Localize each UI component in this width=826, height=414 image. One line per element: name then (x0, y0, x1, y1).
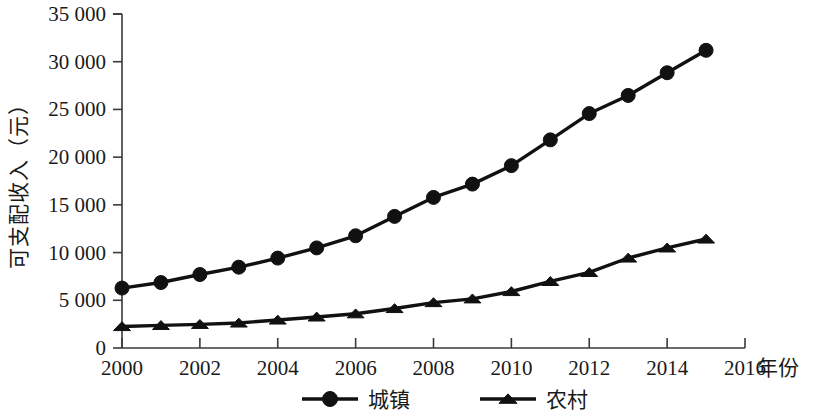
legend-item-2: 农村 (480, 388, 588, 412)
y-axis-title: 可支配收入（元） (7, 93, 31, 269)
data-point-circle (660, 66, 674, 80)
series-line-1 (122, 50, 706, 288)
data-point-circle (271, 251, 285, 265)
y-axis-tick-labels: 05 00010 00015 00020 00025 00030 00035 0… (48, 2, 106, 360)
data-point-circle (427, 190, 441, 204)
y-tick-label: 35 000 (48, 2, 106, 26)
x-axis-title: 年份 (757, 356, 799, 380)
data-point-circle (388, 209, 402, 223)
y-tick-label: 5 000 (59, 288, 106, 312)
x-tick-label: 2006 (335, 356, 377, 380)
legend-label: 城镇 (368, 388, 410, 412)
y-tick-label: 10 000 (48, 241, 106, 265)
x-tick-label: 2010 (490, 356, 532, 380)
series-markers (114, 43, 715, 330)
y-tick-label: 20 000 (48, 145, 106, 169)
x-tick-label: 2012 (568, 356, 610, 380)
data-point-circle (310, 241, 324, 255)
data-point-circle (504, 159, 518, 173)
x-tick-label: 2014 (646, 356, 689, 380)
data-point-circle (154, 276, 168, 290)
data-point-circle (582, 107, 596, 121)
x-tick-label: 2000 (101, 356, 143, 380)
x-axis-tick-marks (122, 338, 745, 348)
x-axis-tick-labels: 200020022004200620082010201220142016 (101, 356, 766, 380)
series-line-2 (122, 239, 706, 327)
data-point-circle (232, 260, 246, 274)
series-lines (122, 50, 706, 326)
chart-container: 05 00010 00015 00020 00025 00030 00035 0… (0, 0, 826, 414)
data-point-circle (465, 177, 479, 191)
y-tick-label: 30 000 (48, 50, 106, 74)
legend-item-1: 城镇 (302, 388, 410, 412)
data-point-circle (699, 43, 713, 57)
line-chart: 05 00010 00015 00020 00025 00030 00035 0… (0, 0, 826, 414)
x-tick-label: 2004 (257, 356, 300, 380)
y-tick-label: 25 000 (48, 97, 106, 121)
y-tick-label: 15 000 (48, 193, 106, 217)
data-point-circle (193, 268, 207, 282)
legend-label: 农村 (546, 388, 588, 412)
chart-legend: 城镇农村 (302, 388, 588, 412)
legend-marker-circle (323, 392, 338, 407)
y-axis-tick-marks (113, 14, 122, 348)
data-point-circle (349, 229, 363, 243)
x-tick-label: 2002 (179, 356, 221, 380)
data-point-circle (621, 88, 635, 102)
x-tick-label: 2008 (413, 356, 455, 380)
data-point-circle (115, 281, 129, 295)
data-point-circle (543, 133, 557, 147)
data-point-triangle (698, 234, 715, 243)
